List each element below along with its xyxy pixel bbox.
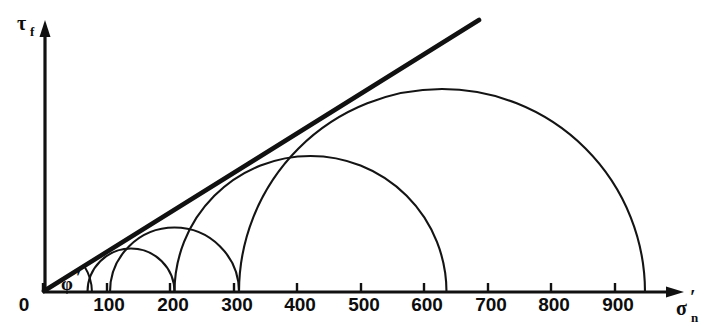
- tick-label-400: 400: [284, 294, 316, 315]
- axes-group: [40, 20, 685, 298]
- x-axis-label-prime: ′: [690, 286, 696, 308]
- tick-labels-group: 0 100 200 300 400 500 600 700 800 900: [19, 294, 634, 315]
- mohr-circle-figure: 0 100 200 300 400 500 600 700 800 900 τ …: [0, 0, 727, 335]
- failure-envelope-line: [44, 20, 479, 291]
- tick-label-500: 500: [348, 294, 380, 315]
- tick-label-600: 600: [411, 294, 443, 315]
- y-axis-label-tau: τ: [17, 12, 26, 34]
- friction-angle-label-prime: ′: [76, 267, 81, 288]
- tick-label-200: 200: [157, 294, 189, 315]
- x-axis-label-subscript-n: n: [691, 310, 699, 325]
- mohr-circle-3: [175, 156, 447, 292]
- tick-label-900: 900: [602, 294, 634, 315]
- mohr-diagram-canvas: 0 100 200 300 400 500 600 700 800 900 τ …: [0, 0, 727, 335]
- tick-label-800: 800: [538, 294, 570, 315]
- x-axis-label-sigma: σ: [676, 297, 687, 319]
- x-axis-arrowhead: [666, 287, 684, 298]
- tick-label-700: 700: [475, 294, 507, 315]
- tick-label-0: 0: [19, 294, 30, 315]
- y-axis-label-subscript-f: f: [30, 24, 35, 39]
- y-axis-label-group: τ f: [17, 12, 35, 39]
- tick-label-300: 300: [221, 294, 253, 315]
- tick-label-100: 100: [93, 294, 125, 315]
- mohr-circles-group: [88, 89, 646, 292]
- friction-angle-label-group: φ ′: [61, 267, 81, 294]
- friction-angle-label-phi: φ: [61, 273, 73, 294]
- y-axis-arrowhead: [40, 20, 51, 37]
